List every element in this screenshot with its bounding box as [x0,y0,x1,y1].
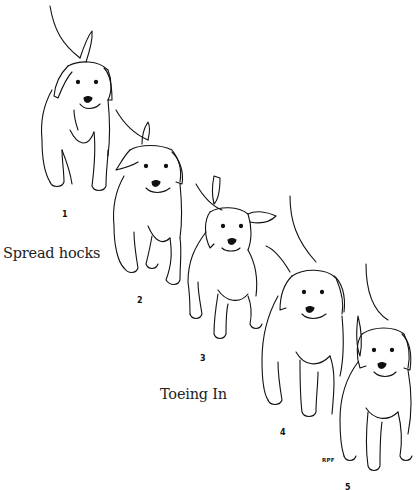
dog-2 [113,122,182,285]
label-toeing-in: Toeing In [160,386,227,402]
figure-number-5: 5 [345,483,351,490]
dog-3 [188,176,276,339]
dog-gait-illustration: 1 Spread hocks 2 3 Toeing In 4 RPF 5 [0,0,419,490]
dog-5 [340,264,412,471]
figure-number-3: 3 [200,354,206,363]
dog-4 [262,196,345,417]
figure-number-2: 2 [137,296,143,305]
figure-number-4: 4 [280,428,286,437]
dog-1 [41,6,148,191]
figure-number-1: 1 [62,210,68,219]
artist-signature: RPF [322,457,335,463]
label-spread-hocks: Spread hocks [3,245,100,261]
